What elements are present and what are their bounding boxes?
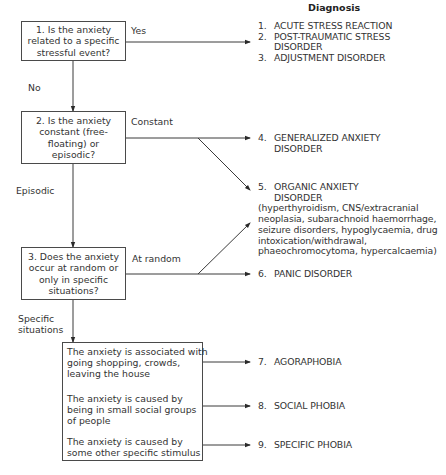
diagnosis-text: PANIC DISORDER bbox=[274, 268, 352, 279]
diagnosis-9: 9.SPECIFIC PHOBIA bbox=[258, 440, 352, 451]
specific-label-line2: situations bbox=[18, 324, 63, 335]
no-label: No bbox=[28, 82, 41, 93]
diagnosis-number: 3. bbox=[258, 53, 274, 64]
question-2-box: 2. Is the anxiety constant (free-floatin… bbox=[21, 111, 126, 164]
situation-agoraphobia: The anxiety is associated with going sho… bbox=[67, 346, 208, 379]
situations-box: The anxiety is associated with going sho… bbox=[62, 342, 203, 461]
diagnosis-heading: Diagnosis bbox=[308, 2, 360, 13]
situation-line: leaving the house bbox=[67, 368, 208, 379]
at-random-label: At random bbox=[132, 253, 181, 264]
diagnosis-8: 8.SOCIAL PHOBIA bbox=[258, 401, 345, 412]
diagnosis-text: ADJUSTMENT DISORDER bbox=[274, 52, 385, 63]
diagnosis-text: ACUTE STRESS REACTION bbox=[274, 20, 392, 31]
diagnosis-number: 4. bbox=[258, 133, 274, 144]
anxiety-diagnosis-flowchart: Diagnosis 1. Is the anxiety related to a… bbox=[0, 0, 446, 475]
diagnosis-number: 5. bbox=[258, 182, 274, 193]
diagnosis-5: 5.ORGANIC ANXIETY DISORDER (hyperthyroid… bbox=[258, 182, 438, 257]
situation-line: of people bbox=[67, 415, 196, 426]
question-3-text: 3. Does the anxiety occur at random or o… bbox=[25, 251, 122, 296]
diagnosis-number: 2. bbox=[258, 32, 274, 43]
diagnosis-7: 7.AGORAPHOBIA bbox=[258, 357, 341, 368]
situation-social: The anxiety is caused by being in small … bbox=[67, 393, 196, 426]
situation-specific: The anxiety is caused by some other spec… bbox=[67, 436, 200, 458]
constant-organic-arrow bbox=[198, 138, 250, 190]
diagnosis-number: 1. bbox=[258, 21, 274, 32]
question-1-text: 1. Is the anxiety related to a specific … bbox=[25, 24, 122, 58]
diagnosis-5-detail: seizure disorders, hypoglycaemia, drug bbox=[258, 225, 438, 236]
situation-line: The anxiety is associated with bbox=[67, 346, 208, 357]
diagnosis-text: GENERALIZED ANXIETY bbox=[274, 132, 380, 143]
diagnosis-text: SOCIAL PHOBIA bbox=[274, 400, 345, 411]
situation-line: being in small social groups bbox=[67, 404, 196, 415]
question-2-text: 2. Is the anxiety constant (free-floatin… bbox=[25, 115, 122, 160]
yes-label: Yes bbox=[131, 25, 146, 36]
diagnosis-group-stress: 1.ACUTE STRESS REACTION 2.POST-TRAUMATIC… bbox=[258, 21, 392, 63]
specific-situations-label: Specific situations bbox=[18, 313, 63, 335]
diagnosis-6: 6.PANIC DISORDER bbox=[258, 269, 352, 280]
diagnosis-text: POST-TRAUMATIC STRESS bbox=[274, 31, 390, 42]
situation-line: The anxiety is caused by bbox=[67, 393, 196, 404]
diagnosis-text: SPECIFIC PHOBIA bbox=[274, 439, 352, 450]
constant-label: Constant bbox=[131, 116, 173, 127]
situation-line: The anxiety is caused by bbox=[67, 436, 200, 447]
situation-line: going shopping, crowds, bbox=[67, 357, 208, 368]
diagnosis-number: 6. bbox=[258, 269, 274, 280]
diagnosis-number: 9. bbox=[258, 440, 274, 451]
situation-line: some other specific stimulus bbox=[67, 447, 200, 458]
diagnosis-text-cont: DISORDER bbox=[258, 144, 380, 155]
question-3-box: 3. Does the anxiety occur at random or o… bbox=[21, 247, 126, 300]
question-1-box: 1. Is the anxiety related to a specific … bbox=[21, 21, 126, 61]
diagnosis-5-detail: phaeochromocytoma, hypercalcaemia) bbox=[258, 246, 438, 257]
diagnosis-text: AGORAPHOBIA bbox=[274, 356, 341, 367]
diagnosis-3: 3.ADJUSTMENT DISORDER bbox=[258, 53, 392, 64]
specific-label-line1: Specific bbox=[18, 313, 63, 324]
episodic-label: Episodic bbox=[16, 185, 55, 196]
diagnosis-4: 4.GENERALIZED ANXIETY DISORDER bbox=[258, 133, 380, 154]
diagnosis-text: ORGANIC ANXIETY bbox=[274, 181, 359, 192]
diagnosis-number: 8. bbox=[258, 401, 274, 412]
random-organic-arrow bbox=[198, 223, 250, 274]
diagnosis-number: 7. bbox=[258, 357, 274, 368]
